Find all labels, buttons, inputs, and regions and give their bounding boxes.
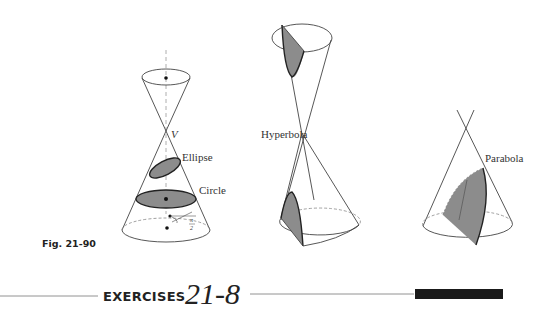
- circle-label: Circle: [199, 184, 226, 196]
- angle-denominator: 2: [190, 225, 193, 231]
- hyperbola-upper-branch: [282, 25, 304, 77]
- header-dark-bar: [415, 289, 503, 299]
- ellipse-section: [147, 154, 184, 182]
- top-nappe-rim: [272, 24, 332, 52]
- hyperbola-label: Hyperbola: [261, 128, 308, 140]
- top-center-dot: [164, 76, 168, 80]
- double-cone-ellipse-circle: π 2 V Ellipse Circle: [122, 50, 226, 242]
- cone-parabola: Parabola: [422, 110, 523, 245]
- conic-sections-figure: π 2 V Ellipse Circle Fig. 21-90 Hyperbol…: [0, 0, 549, 323]
- double-cone-hyperbola: Hyperbola: [261, 24, 360, 246]
- ellipse-label: Ellipse: [182, 151, 213, 163]
- figure-caption: Fig. 21-90: [42, 238, 96, 249]
- base-rim-front: [122, 230, 210, 242]
- exercises-label: EXERCISES: [103, 289, 185, 304]
- angle-numerator: π: [190, 217, 194, 223]
- parabola-label: Parabola: [485, 152, 524, 164]
- exercises-section-header: EXERCISES 21-8: [0, 277, 503, 310]
- vertex-label: V: [171, 128, 179, 140]
- exercises-number: 21-8: [185, 277, 240, 310]
